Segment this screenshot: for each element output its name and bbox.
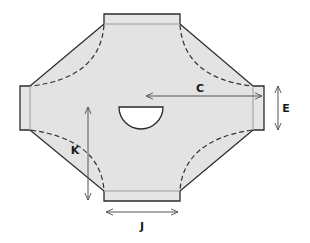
top-tab [104,14,180,24]
right-tab [253,86,264,130]
pattern-diagram: C E K J [0,0,310,243]
bottom-tab [104,191,180,201]
dimension-j: J [106,212,178,233]
dimension-j-label: J [139,220,144,233]
dimension-k-label: K [71,144,80,157]
dimension-e: E [278,86,290,130]
left-tab [20,86,30,130]
dimension-e-label: E [282,102,290,115]
dimension-c-label: C [196,82,204,95]
